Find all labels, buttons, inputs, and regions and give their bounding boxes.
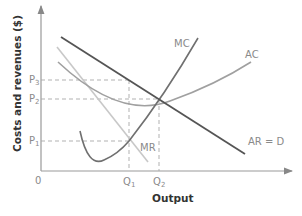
- p1-label: P1: [29, 135, 40, 148]
- ar-demand-curve: [61, 37, 245, 154]
- q1-label: Q1: [123, 176, 135, 189]
- ar-label: AR = D: [248, 136, 285, 147]
- q2-label: Q2: [153, 176, 165, 189]
- x-axis-title: Output: [152, 192, 193, 204]
- mr-label: MR: [140, 142, 156, 153]
- cost-revenue-diagram: MC AC MR AR = D P3 P2 P1 Q1 Q2 0 Output …: [0, 0, 302, 216]
- ac-label: AC: [245, 49, 259, 60]
- p3-label: P3: [29, 74, 40, 87]
- y-axis-title: Costs and revenues ($): [11, 15, 23, 152]
- p2-label: P2: [29, 93, 40, 106]
- origin-label: 0: [35, 175, 41, 186]
- mc-label: MC: [174, 38, 190, 49]
